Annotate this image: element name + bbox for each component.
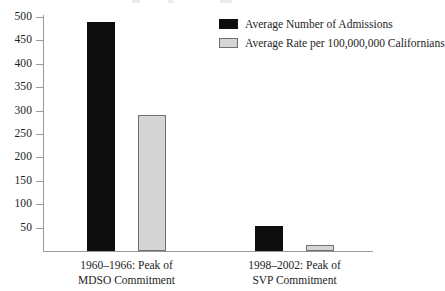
x-axis-category-label-line: 1998–2002: Peak of [215, 258, 375, 273]
y-axis-tick-label: 50 [0, 222, 32, 234]
legend-item: Average Rate per 100,000,000 Californian… [219, 36, 445, 50]
y-axis-tick-label: 350 [0, 81, 32, 93]
legend-item-label: Average Number of Admissions [245, 18, 393, 30]
legend-item: Average Number of Admissions [219, 17, 445, 31]
x-axis-line [43, 251, 373, 252]
y-axis-tick [36, 157, 44, 158]
x-axis-category-label: 1960–1966: Peak ofMDSO Commitment [47, 258, 207, 287]
cropped-title-artifact [120, 0, 320, 3]
y-axis-tick [36, 134, 44, 135]
bar [87, 22, 115, 251]
light-square-swatch-icon [219, 38, 238, 48]
x-axis-category-label: 1998–2002: Peak ofSVP Commitment [215, 258, 375, 287]
y-axis-tick [36, 181, 44, 182]
x-axis-category-label-line: 1960–1966: Peak of [47, 258, 207, 273]
y-axis-tick-label: 100 [0, 198, 32, 210]
y-axis-tick-label: 150 [0, 175, 32, 187]
y-axis-tick-label: 500 [0, 11, 32, 23]
y-axis-tick [36, 17, 44, 18]
y-axis-tick-label: 250 [0, 128, 32, 140]
y-axis-tick [36, 204, 44, 205]
y-axis-tick-label: 300 [0, 105, 32, 117]
y-axis-tick [36, 228, 44, 229]
x-axis-category-label-line: SVP Commitment [215, 273, 375, 288]
bar [138, 115, 166, 251]
y-axis-tick [36, 40, 44, 41]
x-axis-category-label-line: MDSO Commitment [47, 273, 207, 288]
bar [255, 226, 283, 251]
y-axis-tick-label: 400 [0, 58, 32, 70]
dark-square-swatch-icon [219, 19, 238, 29]
y-axis-tick [36, 87, 44, 88]
y-axis-tick [36, 64, 44, 65]
bar [306, 245, 334, 251]
y-axis-tick [36, 111, 44, 112]
y-axis-tick-label: 200 [0, 151, 32, 163]
y-axis-tick-label: 450 [0, 34, 32, 46]
chart-legend: Average Number of Admissions Average Rat… [219, 17, 445, 55]
legend-item-label: Average Rate per 100,000,000 Californian… [245, 37, 445, 49]
